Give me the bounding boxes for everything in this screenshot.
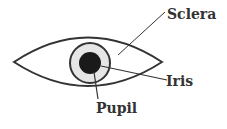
sclera-label: Sclera — [167, 7, 216, 21]
sclera-leader-line — [118, 12, 165, 55]
iris-label: Iris — [166, 74, 193, 88]
pupil-label: Pupil — [96, 101, 137, 115]
pupil — [79, 52, 101, 74]
